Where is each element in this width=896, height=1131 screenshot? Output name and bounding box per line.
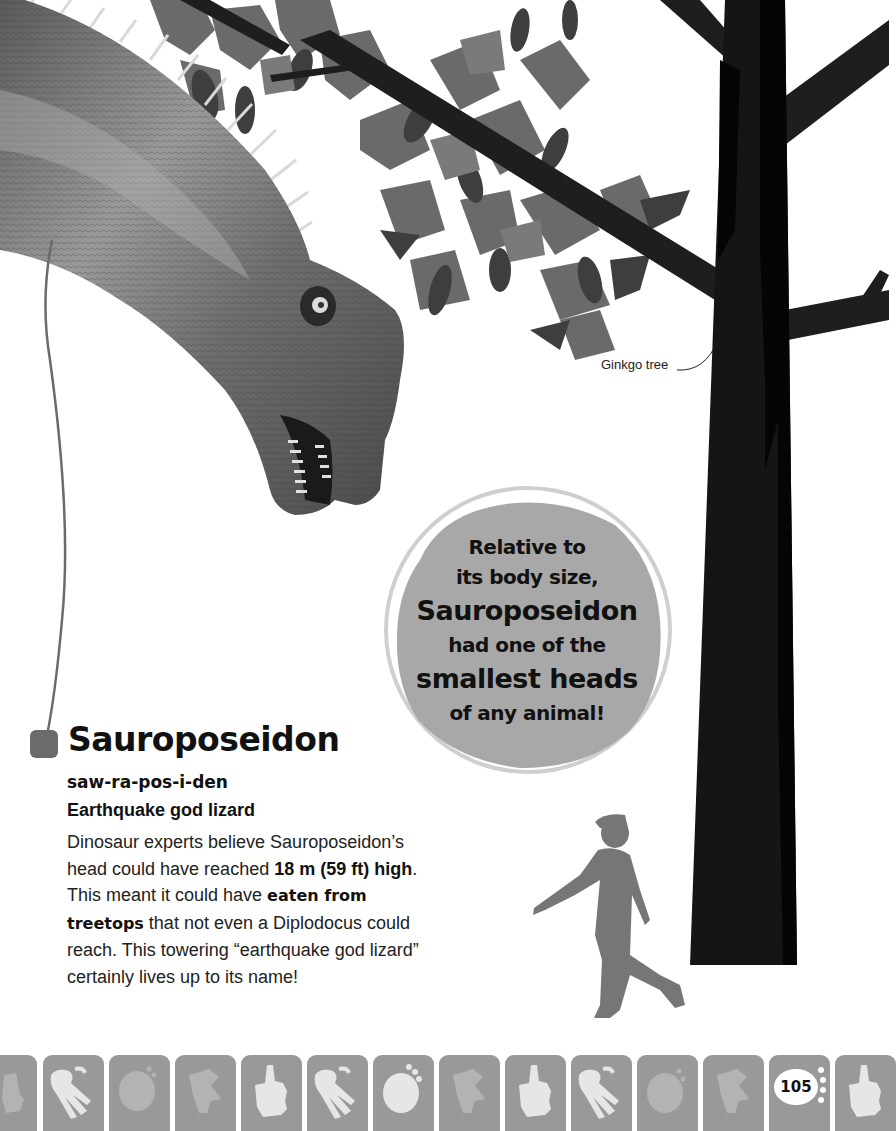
three-toe-footprint-icon (571, 1055, 632, 1131)
toe-dot (818, 1067, 824, 1073)
footer-tile (835, 1055, 896, 1131)
fact-line: had one of the (448, 630, 605, 660)
pronunciation: saw-ra-pos-i-den (67, 772, 228, 792)
page-number-footprint: 105 (774, 1069, 818, 1105)
child-walking-silhouette (533, 814, 685, 1018)
footprint-footer-strip: 105 (0, 1052, 889, 1131)
round-footprint-icon (373, 1055, 434, 1131)
footer-tile (703, 1055, 764, 1131)
toe-dot (820, 1077, 826, 1083)
fact-line: its body size, (456, 562, 598, 592)
footer-tile (307, 1055, 368, 1131)
name-meaning: Earthquake god lizard (67, 800, 255, 821)
body-emphasis-height: 18 m (59 ft) high (274, 859, 412, 879)
three-toe-footprint-icon (307, 1055, 368, 1131)
three-toe-footprint-icon (43, 1055, 104, 1131)
footer-tile (505, 1055, 566, 1131)
fact-line-emphasis: Sauroposeidon (417, 592, 638, 630)
claw-footprint-icon (703, 1055, 764, 1131)
claw-footprint-icon (175, 1055, 236, 1131)
hand-print-icon (0, 1055, 37, 1131)
entry-body-text: Dinosaur experts believe Sauroposeidon’s… (67, 829, 427, 990)
fact-bubble: Relative to its body size, Sauroposeidon… (396, 502, 658, 758)
footer-tile (241, 1055, 302, 1131)
footer-tile (439, 1055, 500, 1131)
footer-tile (175, 1055, 236, 1131)
round-footprint-icon (637, 1055, 698, 1131)
hand-print-icon (505, 1055, 566, 1131)
footer-tile (43, 1055, 104, 1131)
page-number-tile: 105 (769, 1055, 830, 1131)
footer-tile (637, 1055, 698, 1131)
footer-tile (0, 1055, 37, 1131)
claw-footprint-icon (439, 1055, 500, 1131)
hand-print-icon (835, 1055, 896, 1131)
toe-dot (820, 1087, 826, 1093)
callout-line (45, 240, 65, 745)
hand-print-icon (241, 1055, 302, 1131)
heading-bullet (30, 730, 58, 758)
fact-line: of any animal! (449, 698, 604, 728)
ginkgo-trunk (690, 0, 797, 965)
fact-line-emphasis: smallest heads (416, 660, 638, 698)
page-number: 105 (780, 1078, 811, 1096)
footer-tile (373, 1055, 434, 1131)
round-footprint-icon (109, 1055, 170, 1131)
footer-tile (571, 1055, 632, 1131)
fact-line: Relative to (468, 532, 585, 562)
toe-dot (818, 1097, 824, 1103)
dinosaur-name-heading: Sauroposeidon (68, 720, 339, 759)
ginkgo-tree-label: Ginkgo tree (601, 357, 668, 372)
footer-tile (109, 1055, 170, 1131)
